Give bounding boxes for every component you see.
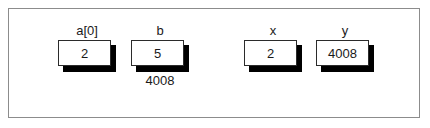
cell-value-b: 5	[154, 46, 161, 61]
cell-value-a0: 2	[81, 46, 88, 61]
address-label-b: 4008	[131, 73, 189, 88]
cell-box-a0: 2	[58, 40, 111, 66]
variable-label-a0: a[0]	[58, 23, 116, 38]
variable-label-x: x	[244, 23, 302, 38]
cell-box-y: 4008	[316, 40, 369, 66]
diagram-frame: a[0] 2 b 5 4008 x 2 y 4008	[8, 8, 420, 118]
variable-label-b: b	[131, 23, 189, 38]
cell-box-x: 2	[244, 40, 297, 66]
variable-label-y: y	[316, 23, 374, 38]
cell-box-b: 5	[131, 40, 184, 66]
cell-value-x: 2	[267, 46, 274, 61]
cell-value-y: 4008	[328, 46, 357, 61]
